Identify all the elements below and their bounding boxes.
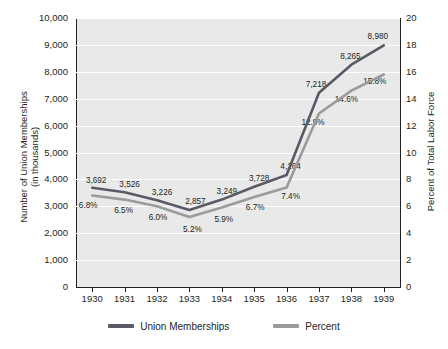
gridline xyxy=(76,18,400,19)
left-axis-tick-label: 1,000 xyxy=(0,255,68,265)
x-axis-tick xyxy=(254,288,255,292)
legend-item[interactable]: Union Memberships xyxy=(108,321,229,332)
left-axis-tick-label: 8,000 xyxy=(0,67,68,77)
gridline xyxy=(76,45,400,46)
right-axis-tick-label: 14 xyxy=(406,94,428,104)
legend-swatch-icon xyxy=(108,324,134,328)
legend-label: Union Memberships xyxy=(140,321,229,332)
data-label-percent: 14.6% xyxy=(329,95,363,104)
data-label-percent: 6.8% xyxy=(71,201,105,210)
gridline xyxy=(76,260,400,261)
right-axis-tick-label: 8 xyxy=(406,174,428,184)
data-label-percent: 6.5% xyxy=(107,206,141,215)
gridline xyxy=(76,153,400,154)
right-axis-tick-label: 20 xyxy=(406,13,428,23)
x-axis-tick xyxy=(319,288,320,292)
data-label-union-memberships: 4,164 xyxy=(274,162,308,171)
data-label-union-memberships: 3,692 xyxy=(79,176,113,185)
right-axis-line xyxy=(400,18,401,288)
x-axis-tick xyxy=(92,288,93,292)
data-label-union-memberships: 8,265 xyxy=(333,52,367,61)
chart-legend: Union MembershipsPercent xyxy=(0,318,448,334)
left-axis-title: Number of Union Memberships (in thousand… xyxy=(18,57,40,257)
data-label-union-memberships: 3,728 xyxy=(242,174,276,183)
data-label-percent: 15.8% xyxy=(358,77,392,86)
data-label-percent: 7.4% xyxy=(274,192,308,201)
gridline xyxy=(76,126,400,127)
legend-label: Percent xyxy=(305,321,339,332)
data-label-union-memberships: 7,218 xyxy=(299,80,333,89)
data-label-percent: 5.9% xyxy=(207,215,241,224)
left-axis-tick-label: 7,000 xyxy=(0,94,68,104)
data-label-percent: 6.0% xyxy=(141,213,175,222)
x-axis-tick xyxy=(351,288,352,292)
left-axis-tick-label: 0 xyxy=(0,282,68,292)
right-axis-tick-label: 6 xyxy=(406,201,428,211)
x-axis-tick xyxy=(157,288,158,292)
left-axis-tick-label: 6,000 xyxy=(0,121,68,131)
left-axis-tick-label: 4,000 xyxy=(0,174,68,184)
x-axis-tick xyxy=(189,288,190,292)
data-label-union-memberships: 8,980 xyxy=(361,32,395,41)
x-axis-tick xyxy=(222,288,223,292)
data-label-union-memberships: 3,249 xyxy=(210,187,244,196)
gridline xyxy=(76,72,400,73)
x-axis-tick xyxy=(125,288,126,292)
left-axis-tick-label: 3,000 xyxy=(0,201,68,211)
right-axis-tick-label: 2 xyxy=(406,255,428,265)
data-label-union-memberships: 3,526 xyxy=(113,180,147,189)
data-label-union-memberships: 2,857 xyxy=(178,197,212,206)
left-axis-tick-label: 2,000 xyxy=(0,228,68,238)
right-axis-tick-label: 18 xyxy=(406,40,428,50)
chart-container: Number of Union Memberships (in thousand… xyxy=(0,0,448,349)
x-axis-tick xyxy=(287,288,288,292)
x-axis-tick xyxy=(384,288,385,292)
data-label-union-memberships: 3,226 xyxy=(145,188,179,197)
data-label-percent: 12.9% xyxy=(296,118,330,127)
left-axis-tick-label: 9,000 xyxy=(0,40,68,50)
right-axis-tick-label: 10 xyxy=(406,148,428,158)
x-axis-tick-label: 1939 xyxy=(364,293,404,304)
right-axis-tick-label: 0 xyxy=(406,282,428,292)
left-axis-tick-label: 5,000 xyxy=(0,148,68,158)
right-axis-tick-label: 16 xyxy=(406,67,428,77)
legend-swatch-icon xyxy=(273,324,299,328)
right-axis-tick-label: 12 xyxy=(406,121,428,131)
gridline xyxy=(76,233,400,234)
left-axis-tick-label: 10,000 xyxy=(0,13,68,23)
legend-item[interactable]: Percent xyxy=(273,321,339,332)
data-label-percent: 6.7% xyxy=(238,203,272,212)
data-label-percent: 5.2% xyxy=(175,225,209,234)
right-axis-tick-label: 4 xyxy=(406,228,428,238)
